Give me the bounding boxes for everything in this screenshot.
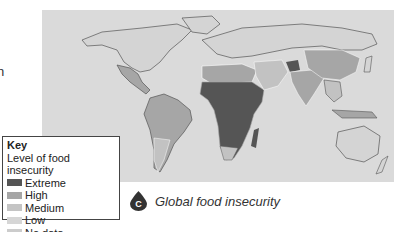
swatch-no-data: [7, 229, 22, 232]
key-label: High: [25, 189, 48, 202]
svg-text:C: C: [135, 199, 142, 209]
key-label: No data: [25, 227, 64, 233]
key-item-no-data: No data: [7, 227, 115, 233]
japan: [364, 56, 372, 72]
south-america: [144, 94, 192, 172]
new-zealand: [376, 156, 388, 174]
key-label: Medium: [25, 202, 64, 215]
afghanistan: [286, 60, 300, 72]
north-africa: [202, 64, 257, 84]
key-item-medium: Medium: [7, 202, 115, 215]
key-label: Low: [25, 214, 45, 227]
eurasia-north: [202, 24, 377, 58]
madagascar: [251, 128, 259, 148]
north-america: [82, 24, 192, 72]
swatch-high: [7, 192, 22, 199]
australia: [336, 126, 380, 162]
cropped-side-text: n: [0, 64, 4, 79]
swatch-extreme: [7, 179, 22, 186]
key-item-low: Low: [7, 214, 115, 227]
south-africa: [220, 146, 238, 160]
key-title: Key: [7, 139, 115, 152]
indonesia: [332, 110, 377, 118]
key-item-extreme: Extreme: [7, 177, 115, 190]
figure-caption: C Global food insecurity: [130, 191, 280, 211]
southeast-asia: [324, 80, 342, 102]
key-subtitle: Level of food insecurity: [7, 152, 115, 177]
droplet-badge-icon: C: [130, 191, 147, 211]
key-label: Extreme: [25, 177, 66, 190]
caption-text: Global food insecurity: [155, 194, 280, 209]
swatch-low: [7, 217, 22, 224]
middle-east: [254, 60, 288, 90]
map-key: Key Level of food insecurity Extreme Hig…: [2, 136, 120, 220]
swatch-medium: [7, 204, 22, 211]
key-item-high: High: [7, 189, 115, 202]
